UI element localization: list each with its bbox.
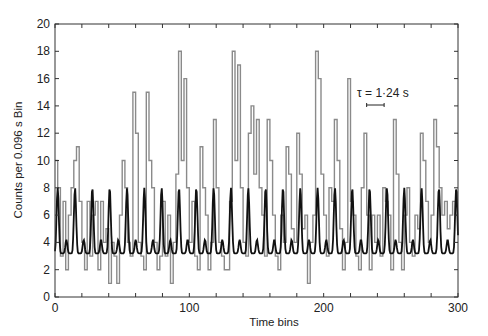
y-tick-label: 0 bbox=[43, 290, 50, 304]
x-axis: 0100200300 bbox=[52, 24, 469, 315]
y-axis: 02468101214161820 bbox=[37, 17, 458, 304]
tau-period-bar bbox=[367, 103, 384, 107]
y-tick-label: 4 bbox=[43, 235, 50, 249]
chart-figure: 02468101214161820 0100200300 Time bins C… bbox=[0, 0, 488, 336]
y-tick-label: 20 bbox=[37, 17, 51, 31]
x-tick-label: 300 bbox=[448, 301, 468, 315]
y-tick-label: 18 bbox=[37, 44, 51, 58]
x-tick-label: 200 bbox=[314, 301, 334, 315]
x-tick-label: 100 bbox=[179, 301, 199, 315]
y-axis-title: Counts per 0.096 s Bin bbox=[12, 102, 24, 219]
y-tick-label: 16 bbox=[37, 72, 51, 86]
tau-annotation: τ = 1·24 s bbox=[357, 86, 409, 100]
y-tick-label: 2 bbox=[43, 263, 50, 277]
x-axis-title: Time bins bbox=[249, 316, 299, 328]
smoothed-fit-line bbox=[55, 188, 458, 254]
y-tick-label: 12 bbox=[37, 126, 51, 140]
y-tick-label: 14 bbox=[37, 99, 51, 113]
y-tick-label: 10 bbox=[37, 154, 51, 168]
y-tick-label: 6 bbox=[43, 208, 50, 222]
x-tick-label: 0 bbox=[52, 301, 59, 315]
y-tick-label: 8 bbox=[43, 181, 50, 195]
